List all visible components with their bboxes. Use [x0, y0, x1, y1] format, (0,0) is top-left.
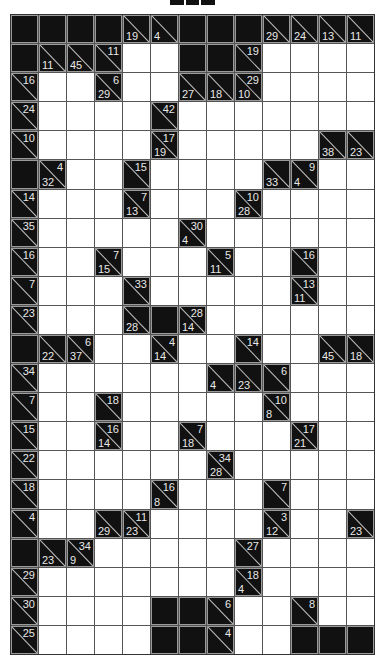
answer-cell[interactable]: [347, 277, 374, 305]
answer-cell[interactable]: [319, 451, 346, 479]
answer-cell[interactable]: [319, 539, 346, 567]
answer-cell[interactable]: [95, 160, 122, 188]
answer-cell[interactable]: [39, 102, 66, 130]
answer-cell[interactable]: [67, 131, 94, 159]
answer-cell[interactable]: [235, 102, 262, 130]
answer-cell[interactable]: [95, 102, 122, 130]
answer-cell[interactable]: [263, 306, 290, 334]
answer-cell[interactable]: [179, 131, 206, 159]
answer-cell[interactable]: [67, 393, 94, 421]
answer-cell[interactable]: [39, 480, 66, 508]
answer-cell[interactable]: [39, 248, 66, 276]
answer-cell[interactable]: [151, 451, 178, 479]
answer-cell[interactable]: [263, 190, 290, 218]
answer-cell[interactable]: [291, 568, 318, 596]
answer-cell[interactable]: [291, 190, 318, 218]
answer-cell[interactable]: [291, 219, 318, 247]
answer-cell[interactable]: [347, 568, 374, 596]
answer-cell[interactable]: [291, 539, 318, 567]
answer-cell[interactable]: [151, 422, 178, 450]
answer-cell[interactable]: [319, 597, 346, 625]
answer-cell[interactable]: [123, 73, 150, 101]
answer-cell[interactable]: [263, 248, 290, 276]
answer-cell[interactable]: [67, 422, 94, 450]
answer-cell[interactable]: [207, 480, 234, 508]
answer-cell[interactable]: [123, 568, 150, 596]
answer-cell[interactable]: [151, 190, 178, 218]
answer-cell[interactable]: [67, 597, 94, 625]
answer-cell[interactable]: [347, 539, 374, 567]
answer-cell[interactable]: [347, 393, 374, 421]
answer-cell[interactable]: [235, 597, 262, 625]
answer-cell[interactable]: [151, 44, 178, 72]
answer-cell[interactable]: [67, 277, 94, 305]
answer-cell[interactable]: [263, 277, 290, 305]
answer-cell[interactable]: [319, 44, 346, 72]
answer-cell[interactable]: [291, 102, 318, 130]
answer-cell[interactable]: [67, 364, 94, 392]
answer-cell[interactable]: [179, 190, 206, 218]
answer-cell[interactable]: [235, 510, 262, 538]
answer-cell[interactable]: [207, 306, 234, 334]
answer-cell[interactable]: [179, 160, 206, 188]
answer-cell[interactable]: [151, 160, 178, 188]
answer-cell[interactable]: [347, 73, 374, 101]
answer-cell[interactable]: [291, 451, 318, 479]
answer-cell[interactable]: [263, 73, 290, 101]
answer-cell[interactable]: [347, 160, 374, 188]
answer-cell[interactable]: [319, 190, 346, 218]
answer-cell[interactable]: [263, 451, 290, 479]
answer-cell[interactable]: [347, 306, 374, 334]
answer-cell[interactable]: [95, 277, 122, 305]
answer-cell[interactable]: [151, 393, 178, 421]
answer-cell[interactable]: [235, 451, 262, 479]
answer-cell[interactable]: [67, 190, 94, 218]
answer-cell[interactable]: [319, 480, 346, 508]
answer-cell[interactable]: [263, 102, 290, 130]
answer-cell[interactable]: [123, 451, 150, 479]
answer-cell[interactable]: [319, 422, 346, 450]
answer-cell[interactable]: [207, 131, 234, 159]
answer-cell[interactable]: [123, 44, 150, 72]
answer-cell[interactable]: [67, 568, 94, 596]
answer-cell[interactable]: [347, 364, 374, 392]
answer-cell[interactable]: [123, 393, 150, 421]
answer-cell[interactable]: [179, 102, 206, 130]
answer-cell[interactable]: [95, 480, 122, 508]
answer-cell[interactable]: [207, 160, 234, 188]
answer-cell[interactable]: [39, 277, 66, 305]
answer-cell[interactable]: [319, 393, 346, 421]
answer-cell[interactable]: [263, 568, 290, 596]
answer-cell[interactable]: [123, 335, 150, 363]
answer-cell[interactable]: [123, 219, 150, 247]
answer-cell[interactable]: [347, 422, 374, 450]
answer-cell[interactable]: [207, 568, 234, 596]
answer-cell[interactable]: [235, 219, 262, 247]
answer-cell[interactable]: [235, 393, 262, 421]
answer-cell[interactable]: [67, 626, 94, 654]
answer-cell[interactable]: [207, 510, 234, 538]
answer-cell[interactable]: [319, 73, 346, 101]
answer-cell[interactable]: [291, 73, 318, 101]
answer-cell[interactable]: [347, 102, 374, 130]
answer-cell[interactable]: [151, 510, 178, 538]
answer-cell[interactable]: [263, 539, 290, 567]
answer-cell[interactable]: [95, 539, 122, 567]
answer-cell[interactable]: [95, 190, 122, 218]
answer-cell[interactable]: [235, 248, 262, 276]
answer-cell[interactable]: [263, 626, 290, 654]
answer-cell[interactable]: [179, 568, 206, 596]
answer-cell[interactable]: [235, 160, 262, 188]
answer-cell[interactable]: [263, 422, 290, 450]
answer-cell[interactable]: [179, 510, 206, 538]
answer-cell[interactable]: [179, 480, 206, 508]
answer-cell[interactable]: [39, 510, 66, 538]
answer-cell[interactable]: [179, 539, 206, 567]
answer-cell[interactable]: [347, 219, 374, 247]
answer-cell[interactable]: [95, 451, 122, 479]
answer-cell[interactable]: [39, 626, 66, 654]
answer-cell[interactable]: [123, 102, 150, 130]
answer-cell[interactable]: [319, 277, 346, 305]
answer-cell[interactable]: [207, 539, 234, 567]
answer-cell[interactable]: [39, 219, 66, 247]
